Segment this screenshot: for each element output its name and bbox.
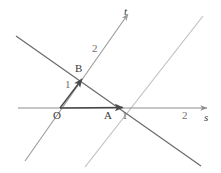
tick-label-t-2: 2: [92, 43, 98, 54]
vector-OB: [60, 79, 82, 108]
oblique-line-descending: [16, 36, 201, 166]
axis-label-t: t: [124, 6, 127, 17]
t-axis-line: [25, 14, 128, 161]
point-label-B: B: [75, 63, 82, 74]
oblique-line-parallel-to-t: [85, 16, 203, 167]
vector-OA: [60, 108, 123, 109]
tick-label-s-1: 1: [122, 110, 128, 121]
point-label-O: O: [53, 110, 61, 121]
tick-label-s-2: 2: [182, 110, 188, 121]
point-label-A: A: [104, 110, 112, 121]
axis-label-s: s: [204, 112, 208, 123]
figure-canvas: [0, 0, 221, 173]
geometry-figure: t s 2 1 B O A 1 2: [0, 0, 221, 173]
tick-label-t-1: 1: [65, 79, 71, 90]
